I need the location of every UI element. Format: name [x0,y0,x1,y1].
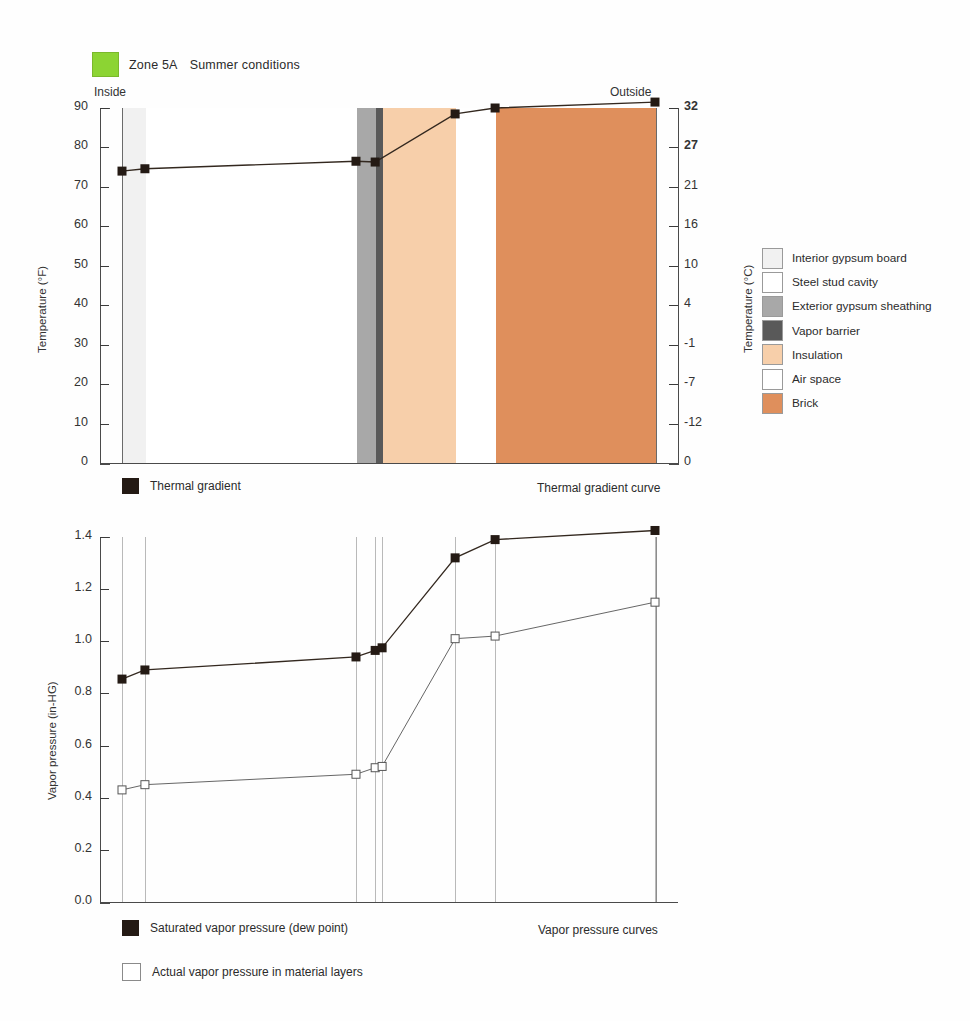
tick-mark-right [669,305,678,306]
thermal-gradient-caption: Thermal gradient curve [537,481,660,495]
legend-label: Interior gypsum board [792,251,907,265]
legend-label: Brick [792,396,818,410]
tick-mark-left [100,147,109,148]
vapor-point-saturated [451,553,460,562]
legend-label: Air space [792,372,841,386]
legend-item-interior-gypsum-board: Interior gypsum board [762,246,932,270]
legend-item-insulation: Insulation [762,343,932,367]
legend-swatch-icon [762,393,783,414]
tick-mark-right [669,108,678,109]
tick-mark-left [100,345,109,346]
tick-mark-right [669,345,678,346]
tick-mark-left [100,108,109,109]
vapor-point-saturated [140,665,149,674]
tick-mark-left [100,187,109,188]
temperature-f-axis-title: Temperature (°F) [36,266,48,353]
tick-mark-left [100,798,109,799]
vapor-pressure-chart: Vapor pressure (in-HG) 1.41.21.00.80.60.… [0,528,760,918]
tick-mark-left [100,305,109,306]
y-tick-label-c: 10 [684,257,714,271]
vapor-point-actual [141,781,149,789]
legend-item-steel-stud-cavity: Steel stud cavity [762,270,932,294]
right-axis-bracket [669,108,679,465]
y-tick-label-vapor: 0.4 [56,789,92,803]
y-tick-label-f: 30 [58,336,88,350]
legend-item-brick: Brick [762,391,932,415]
y-tick-label-f: 80 [58,138,88,152]
y-tick-label-c: -7 [684,375,714,389]
tick-mark-left [100,424,109,425]
vapor-point-saturated [651,526,660,535]
zone-conditions-header: Zone 5ASummer conditions [92,52,300,77]
vapor-point-actual [352,770,360,778]
vapor-point-actual [378,762,386,770]
legend-swatch-icon [762,369,783,390]
tick-mark-right [669,226,678,227]
tick-mark-left [100,693,109,694]
vapor-point-saturated [491,535,500,544]
y-tick-label-f: 10 [58,415,88,429]
actual-vapor-legend: Actual vapor pressure in material layers [122,963,363,981]
vapor-line-actual [122,602,655,790]
legend-label: Vapor barrier [792,324,860,338]
y-tick-label-c: 16 [684,217,714,231]
vapor-line-saturated [122,530,655,679]
thermal-gradient-point [651,98,660,107]
vapor-pressure-caption: Vapor pressure curves [538,923,658,937]
legend-label: Insulation [792,348,843,362]
vapor-point-saturated [378,643,387,652]
y-tick-label-f: 90 [58,99,88,113]
tick-mark-left [100,850,109,851]
saturated-vapor-marker-icon [122,920,139,936]
vapor-point-actual [651,598,659,606]
y-tick-label-vapor: 0.0 [56,893,92,907]
tick-mark-left [100,226,109,227]
thermal-gradient-legend-label: Thermal gradient [150,479,241,493]
y-tick-label-vapor: 1.2 [56,580,92,594]
legend-item-exterior-gypsum-sheathing: Exterior gypsum sheathing [762,294,932,318]
vapor-point-saturated [351,652,360,661]
legend-swatch-icon [762,296,783,317]
temperature-c-axis-title: Temperature (°C) [742,265,754,353]
zone-label: Zone 5A [129,58,178,72]
tick-mark-left [100,641,109,642]
y-tick-label-f: 40 [58,296,88,310]
thermal-gradient-point [140,164,149,173]
outside-label: Outside [610,85,651,99]
thermal-gradient-curve [122,108,655,463]
y-tick-label-f: 70 [58,178,88,192]
vapor-point-actual [451,635,459,643]
tick-mark-left [100,746,109,747]
tick-mark-left [100,589,109,590]
left-axis-bracket [100,108,110,465]
tick-mark-right [669,266,678,267]
zone-color-swatch [92,52,119,77]
legend-item-air-space: Air space [762,367,932,391]
conditions-label: Summer conditions [190,58,300,72]
y-tick-label-c: 0 [684,454,714,468]
top-chart-baseline [100,463,678,464]
vapor-point-actual [491,632,499,640]
y-tick-label-vapor: 1.0 [56,632,92,646]
y-tick-label-c: -12 [684,415,714,429]
saturated-vapor-legend-label: Saturated vapor pressure (dew point) [150,921,348,935]
tick-mark-right [669,424,678,425]
thermal-gradient-point [371,158,380,167]
tick-mark-left [100,266,109,267]
actual-vapor-legend-label: Actual vapor pressure in material layers [152,965,363,979]
legend-label: Exterior gypsum sheathing [792,299,932,313]
y-tick-label-vapor: 0.2 [56,841,92,855]
y-tick-label-c: 32 [684,99,714,113]
legend-swatch-icon [762,272,783,293]
vapor-point-actual [118,786,126,794]
thermal-gradient-legend: Thermal gradient [122,478,241,494]
legend-swatch-icon [762,320,783,341]
zone-conditions-label: Zone 5ASummer conditions [129,58,300,72]
tick-mark-right [669,187,678,188]
thermal-gradient-point [118,167,127,176]
y-tick-label-vapor: 0.8 [56,684,92,698]
y-tick-label-f: 50 [58,257,88,271]
thermal-gradient-line [122,102,655,171]
legend-label: Steel stud cavity [792,275,878,289]
y-tick-label-c: 4 [684,296,714,310]
